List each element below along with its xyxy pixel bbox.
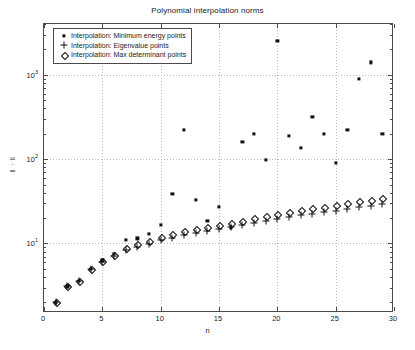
- y-tick-minor: [44, 167, 46, 168]
- y-tick: [44, 243, 48, 244]
- y-tick: [44, 75, 48, 76]
- y-tick-minor: [44, 83, 46, 84]
- y-tick-minor: [44, 119, 46, 120]
- y-tick-minor: [44, 172, 46, 173]
- data-point: [239, 221, 246, 228]
- data-point: [311, 115, 314, 118]
- data-point: [101, 259, 104, 262]
- data-point: [381, 132, 384, 135]
- y-tick-minor: [390, 134, 392, 135]
- x-tick: [394, 307, 395, 311]
- y-tick-minor: [390, 100, 392, 101]
- data-point: [157, 237, 164, 244]
- x-tick: [336, 24, 337, 28]
- data-point: [122, 246, 129, 253]
- y-tick: [388, 159, 392, 160]
- x-tick-label: 20: [261, 314, 291, 323]
- data-point: [204, 228, 211, 235]
- legend-marker-diamond-icon: [57, 50, 71, 59]
- y-tick-minor: [44, 35, 46, 36]
- data-point: [216, 225, 223, 232]
- y-tick-minor: [390, 203, 392, 204]
- y-tick-minor: [390, 262, 392, 263]
- gridline-vertical: [336, 24, 337, 311]
- data-point: [182, 129, 185, 132]
- y-tick-minor: [44, 288, 46, 289]
- x-tick: [161, 307, 162, 311]
- y-tick-minor: [44, 79, 46, 80]
- y-tick-minor: [44, 218, 46, 219]
- data-point: [112, 252, 115, 255]
- y-tick-minor: [390, 185, 392, 186]
- data-layer: [44, 24, 392, 311]
- data-point: [369, 61, 372, 64]
- data-point: [241, 140, 244, 143]
- data-point: [134, 243, 141, 250]
- data-point: [147, 232, 150, 235]
- data-point: [297, 212, 304, 219]
- y-tick-minor: [390, 269, 392, 270]
- data-point: [287, 134, 290, 137]
- y-tick-minor: [44, 203, 46, 204]
- data-point: [192, 229, 199, 236]
- y-tick-minor: [44, 262, 46, 263]
- data-point: [321, 209, 328, 216]
- y-tick-minor: [390, 35, 392, 36]
- y-tick-minor: [390, 178, 392, 179]
- y-tick-minor: [390, 94, 392, 95]
- data-point: [229, 226, 232, 229]
- data-point: [89, 267, 92, 270]
- y-tick-minor: [390, 119, 392, 120]
- y-tick-label: 103: [12, 69, 38, 80]
- data-point: [194, 198, 197, 201]
- data-point: [332, 207, 339, 214]
- data-point: [54, 301, 57, 304]
- data-point: [169, 235, 176, 242]
- y-tick-minor: [44, 178, 46, 179]
- figure: Polynomial interpolation norms ‖ · ‖ n I…: [0, 0, 415, 350]
- data-point: [251, 219, 258, 226]
- x-tick: [102, 307, 103, 311]
- x-tick: [219, 307, 220, 311]
- y-tick-minor: [44, 108, 46, 109]
- y-tick-label: 101: [12, 237, 38, 248]
- legend-item-eigenvalue: Interpolation: Eigenvalue points: [57, 41, 186, 51]
- y-tick-minor: [390, 257, 392, 258]
- y-tick: [44, 159, 48, 160]
- data-point: [146, 240, 153, 247]
- data-point: [252, 132, 255, 135]
- data-point: [262, 217, 269, 224]
- gridline-horizontal: [44, 159, 392, 160]
- y-tick-minor: [390, 167, 392, 168]
- legend-label: Interpolation: Max determinant points: [71, 51, 186, 58]
- data-point: [124, 238, 127, 241]
- data-point: [66, 285, 69, 288]
- data-point: [346, 129, 349, 132]
- legend: Interpolation: Minimum energy points Int…: [53, 28, 192, 64]
- gridline-vertical: [219, 24, 220, 311]
- y-tick-minor: [390, 79, 392, 80]
- y-tick-minor: [390, 247, 392, 248]
- y-tick-minor: [390, 277, 392, 278]
- y-tick-minor: [390, 252, 392, 253]
- data-point: [181, 232, 188, 239]
- y-tick-minor: [390, 288, 392, 289]
- data-point: [357, 77, 360, 80]
- x-tick: [219, 24, 220, 28]
- data-point: [356, 204, 363, 211]
- y-tick-minor: [44, 269, 46, 270]
- data-point: [286, 214, 293, 221]
- y-tick-minor: [44, 257, 46, 258]
- legend-label: Interpolation: Minimum energy points: [71, 32, 186, 39]
- gridline-horizontal: [44, 75, 392, 76]
- y-tick-minor: [44, 247, 46, 248]
- y-tick-minor: [44, 193, 46, 194]
- x-tick-label: 5: [86, 314, 116, 323]
- data-point: [322, 132, 325, 135]
- y-tick-minor: [44, 277, 46, 278]
- data-point: [367, 202, 374, 209]
- data-point: [206, 219, 209, 222]
- data-point: [136, 237, 139, 240]
- data-point: [159, 224, 162, 227]
- y-tick-minor: [44, 252, 46, 253]
